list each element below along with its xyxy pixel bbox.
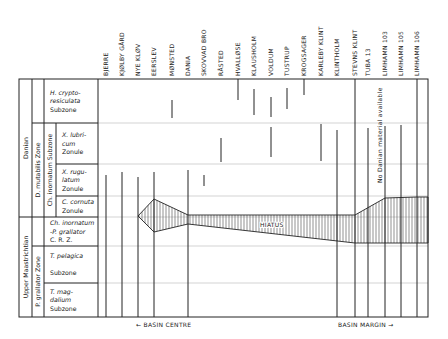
locality-header: KARLEBY KLINT	[317, 26, 324, 76]
no-danian-note: No Danian material available	[376, 87, 383, 183]
unit-label: latum	[62, 176, 80, 183]
locality-header: KROGSAGER	[300, 35, 307, 76]
range-lines	[106, 79, 417, 317]
locality-header: LIMHAMN 103	[381, 31, 388, 76]
locality-header: KLAUSHOLM	[250, 36, 257, 76]
stratigraphic-correlation-diagram: DanianUpper MaastrichtianD. mutabilis Zo…	[0, 0, 448, 339]
locality-header: KJØLBY GÅRD	[118, 32, 126, 76]
unit-label: cum	[62, 140, 75, 147]
unit-label: resiculata	[50, 97, 81, 104]
basin-centre-label: ← BASIN CENTRE	[136, 321, 191, 328]
subzone-label: Ch. inornatum Subzone	[46, 133, 53, 206]
locality-header: NYE KLØV	[134, 43, 141, 76]
unit-label: Subzone	[50, 305, 77, 312]
locality-header: BJERRE	[102, 52, 110, 76]
locality-header: STEVNS KLINT	[351, 30, 358, 76]
stage-label: Danian	[22, 137, 29, 159]
unit-label: Subzone	[50, 269, 77, 276]
locality-header: RÅSTED	[217, 50, 224, 76]
locality-header: MØNSTED	[168, 44, 175, 76]
unit-label: Zonule	[62, 185, 84, 192]
unit-label: Zonule	[62, 207, 84, 214]
locality-header: DANIA	[184, 55, 191, 76]
unit-label: T. pelagica	[50, 252, 83, 260]
locality-header: SKOVVAD BRO	[200, 29, 207, 76]
locality-header: KLINTHOLM	[333, 38, 340, 76]
unit-label: C. R. Z.	[50, 236, 73, 243]
zone-label: P. grallator Zone	[34, 256, 42, 307]
unit-label: T. mag-	[50, 288, 73, 296]
locality-header: HVALLØSE	[234, 42, 241, 76]
zone-label: D. mutabilis Zone	[34, 142, 41, 197]
unit-label: C. cornuta	[62, 198, 94, 205]
unit-label: X. lubri-	[61, 131, 86, 138]
zone-labels: DanianUpper MaastrichtianD. mutabilis Zo…	[22, 87, 383, 311]
unit-label: Ch. inornatum	[50, 219, 94, 226]
locality-header: TUBA 13	[364, 48, 371, 77]
unit-label: Zonule	[62, 148, 84, 155]
hiatus-label: HIATUS	[260, 221, 284, 228]
unit-label: -P. grallator	[50, 228, 86, 236]
unit-label: X. rugu-	[61, 168, 87, 176]
locality-header: LIMHAMN 105	[397, 31, 404, 76]
unit-label: Subzone	[50, 106, 77, 113]
unit-label: dalium	[50, 296, 71, 303]
locality-headers: BJERREKJØLBY GÅRDNYE KLØVEERSLEVMØNSTEDD…	[102, 26, 420, 77]
locality-header: EERSLEV	[150, 47, 157, 76]
basin-margin-label: BASIN MARGIN →	[338, 321, 394, 328]
locality-header: LIMHAMN 106	[413, 31, 420, 76]
unit-label: H. crypto-	[50, 89, 81, 97]
locality-header: VOLDUM	[267, 48, 274, 76]
stage-label: Upper Maastrichtian	[22, 236, 30, 299]
locality-header: TUSTRUP	[283, 46, 290, 77]
